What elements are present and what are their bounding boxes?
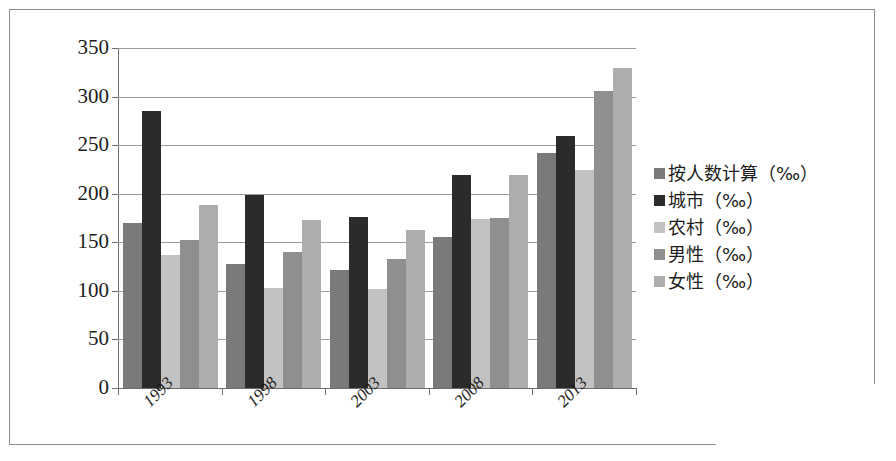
- legend-label: 城市（‰）: [668, 192, 764, 210]
- y-axis-label: 50: [88, 329, 109, 350]
- bar-2013-s3: [594, 91, 613, 388]
- bar-group-2013: [533, 48, 636, 388]
- bar-2008-s2: [471, 219, 490, 388]
- bar-2003-s4: [406, 230, 425, 388]
- bar-1993-s4: [199, 205, 218, 388]
- legend-swatch-icon: [654, 222, 665, 233]
- bar-2003-s1: [349, 217, 368, 388]
- legend-swatch-icon: [654, 195, 665, 206]
- y-tick-300: [112, 97, 118, 98]
- bar-2003-s0: [330, 270, 349, 389]
- legend-swatch-icon: [654, 249, 665, 260]
- y-tick-250: [112, 145, 118, 146]
- legend-item-1: 城市（‰）: [654, 190, 818, 211]
- x-tick: [429, 388, 430, 395]
- y-axis-label: 300: [78, 86, 110, 107]
- chart-legend: 按人数计算（‰）城市（‰）农村（‰）男性（‰）女性（‰）: [654, 163, 818, 292]
- y-axis-label: 200: [78, 183, 110, 204]
- y-axis-label: 0: [99, 377, 110, 398]
- y-tick-350: [112, 48, 118, 49]
- bar-group-1993: [119, 48, 222, 388]
- x-tick: [532, 388, 533, 395]
- bar-chart: 050100150200250300350 199319982003200820…: [0, 0, 896, 461]
- bar-2008-s1: [452, 175, 471, 388]
- bar-1993-s0: [123, 223, 142, 388]
- y-tick-100: [112, 291, 118, 292]
- x-tick: [325, 388, 326, 395]
- y-axis-label: 150: [78, 231, 110, 252]
- y-tick-150: [112, 242, 118, 243]
- bar-1998-s0: [226, 264, 245, 388]
- bar-1998-s3: [283, 252, 302, 388]
- x-tick: [636, 388, 637, 395]
- bar-group-1998: [222, 48, 325, 388]
- bar-2008-s4: [509, 175, 528, 388]
- bar-2013-s1: [556, 136, 575, 388]
- y-tick-50: [112, 339, 118, 340]
- legend-label: 男性（‰）: [668, 246, 764, 264]
- y-axis-label: 250: [78, 134, 110, 155]
- bar-2013-s4: [613, 68, 632, 388]
- bar-2008-s0: [433, 237, 452, 388]
- bar-1998-s4: [302, 220, 321, 388]
- bar-2013-s0: [537, 153, 556, 388]
- legend-swatch-icon: [654, 276, 665, 287]
- bar-group-2003: [326, 48, 429, 388]
- legend-item-3: 男性（‰）: [654, 244, 818, 265]
- bar-groups: [119, 48, 636, 388]
- legend-item-4: 女性（‰）: [654, 271, 818, 292]
- bar-2008-s3: [490, 218, 509, 388]
- bar-1998-s1: [245, 195, 264, 388]
- legend-swatch-icon: [654, 168, 665, 179]
- y-tick-200: [112, 194, 118, 195]
- y-axis-label: 350: [78, 37, 110, 58]
- legend-label: 女性（‰）: [668, 273, 764, 291]
- bar-1993-s1: [142, 111, 161, 388]
- bar-2013-s2: [575, 170, 594, 388]
- legend-item-0: 按人数计算（‰）: [654, 163, 818, 184]
- bar-1993-s2: [161, 255, 180, 388]
- legend-label: 按人数计算（‰）: [668, 165, 818, 183]
- legend-item-2: 农村（‰）: [654, 217, 818, 238]
- x-tick: [118, 388, 119, 395]
- y-axis-label: 100: [78, 280, 110, 301]
- bar-1993-s3: [180, 240, 199, 388]
- legend-label: 农村（‰）: [668, 219, 764, 237]
- screenshot-page: 050100150200250300350 199319982003200820…: [0, 0, 896, 461]
- bar-2003-s3: [387, 259, 406, 388]
- x-tick: [222, 388, 223, 395]
- plot-area: 050100150200250300350: [118, 48, 636, 388]
- bar-group-2008: [429, 48, 532, 388]
